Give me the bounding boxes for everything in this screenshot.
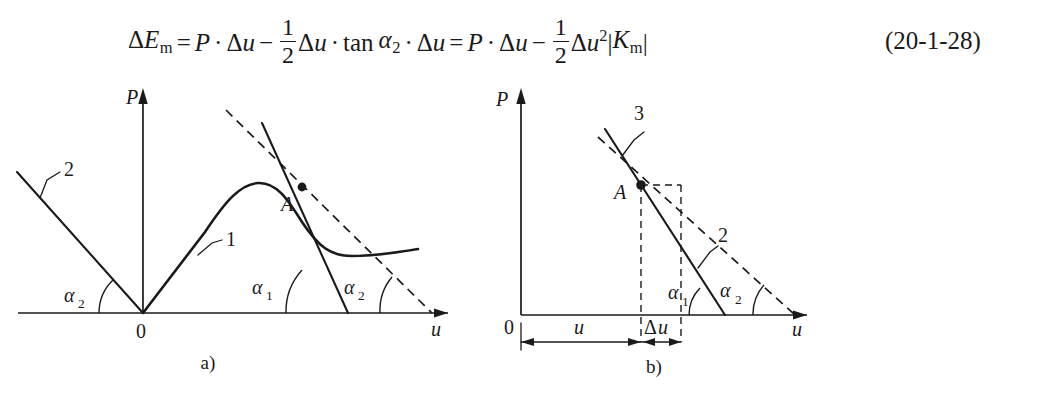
figure-a-angle-alpha2-left-subscript: 2 — [78, 296, 85, 311]
equation-20-1-28: ΔEm = P · Δu − 1 2 Δu · tan α2 · Δu = — [128, 14, 648, 70]
equation-cdot-4: · — [487, 30, 495, 55]
figure-a-p-axis-label: P — [125, 86, 138, 108]
figure-a-origin-label: 0 — [136, 320, 146, 342]
figure-b-drawing: 3 2 A α 1 α 2 u — [462, 80, 892, 380]
figure-a-point-A-marker — [298, 183, 307, 192]
figure-a-angle-alpha2-right-subscript: 2 — [358, 288, 365, 303]
figure-a-angle-alpha2-right-arc — [380, 277, 392, 313]
equation-cdot-2: · — [331, 30, 339, 55]
figure-a-angle-alpha2-left-arc — [99, 280, 113, 313]
equation-abs-close: | — [643, 30, 648, 55]
equation-number: (20-1-28) — [885, 27, 981, 55]
equation-delta-u-squared: Δu2 — [571, 28, 608, 55]
equation-delta-u-1: Δu — [226, 30, 255, 55]
figure-a-label-1-leader — [198, 240, 222, 255]
equation-delta-u-2: Δu — [298, 30, 327, 55]
document-page: ΔEm = P · Δu − 1 2 Δu · tan α2 · Δu = — [0, 0, 1041, 394]
equation-row: ΔEm = P · Δu − 1 2 Δu · tan α2 · Δu = — [0, 14, 1041, 76]
figure-b-origin-label: 0 — [504, 316, 514, 338]
figure-a-angle-alpha2-left-label: α — [64, 284, 75, 306]
figure-a-line-2-label: 2 — [64, 158, 74, 180]
figure-b-angle-alpha2-arc — [753, 285, 764, 315]
figure-b-line-3-solid — [605, 129, 725, 315]
figure-a-caption: a) — [182, 352, 234, 374]
figure-b-dim-u-label: u — [574, 316, 584, 338]
figure-b-angle-alpha2-label: α — [720, 279, 731, 301]
figure-a-point-A-label: A — [279, 193, 294, 215]
figure-b-dim-du-arrow-left — [643, 338, 655, 346]
figure-b: 3 2 A α 1 α 2 u — [462, 80, 892, 394]
figure-b-angle-alpha1-arc — [689, 288, 700, 315]
figure-b-label-2-leader — [698, 246, 718, 268]
equation-equals-2: = — [449, 30, 463, 55]
figure-b-line-3-label: 3 — [634, 102, 644, 124]
figure-a-u-axis-label: u — [431, 318, 441, 340]
equation-delta-u-4: Δu — [499, 30, 528, 55]
equation-minus-2: − — [532, 30, 546, 55]
figure-b-dim-u-arrow-right — [628, 338, 641, 346]
figure-b-caption: b) — [628, 356, 680, 378]
figure-b-label-3-leader — [622, 132, 644, 156]
figure-b-point-A-marker — [636, 180, 646, 190]
figure-b-angle-alpha1-subscript: 1 — [682, 294, 689, 309]
figure-a-angle-alpha2-right-label: α — [344, 276, 355, 298]
figure-b-p-axis-arrowhead — [516, 88, 525, 104]
figure-b-angle-alpha1-label: α — [668, 281, 679, 303]
fraction-denominator: 2 — [553, 43, 569, 67]
figure-b-dim-du-u: u — [658, 316, 668, 338]
equation-K-m: Km — [613, 27, 643, 56]
fraction-numerator: 1 — [553, 15, 569, 39]
equation-P-1: P — [195, 30, 210, 55]
equation-cdot-3: · — [404, 30, 412, 55]
figure-a-curve-1-label: 1 — [226, 228, 236, 250]
equation-P-2: P — [467, 30, 482, 55]
fraction-denominator: 2 — [280, 43, 296, 67]
figure-b-dim-u-arrow-left — [521, 338, 534, 346]
figure-a-angle-alpha1-arc — [286, 270, 302, 313]
figure-a-angle-alpha1-label: α — [252, 276, 263, 298]
figure-b-p-axis-label: P — [495, 88, 508, 110]
figure-b-dim-du-arrow-right — [669, 338, 681, 346]
figure-b-point-A-label: A — [612, 181, 627, 203]
figure-a-u-axis-arrowhead — [434, 308, 448, 317]
figure-a-label-2-leader — [40, 172, 60, 198]
figure-b-angle-alpha2-subscript: 2 — [735, 292, 742, 307]
figure-a-angle-alpha1-subscript: 1 — [266, 288, 273, 303]
figure-a-p-axis-arrowhead — [138, 88, 147, 104]
equation-fraction-half-2: 1 2 — [553, 15, 569, 68]
equation-minus-1: − — [259, 30, 273, 55]
equation-delta-u-3: Δu — [417, 30, 446, 55]
equation-tan: tan — [343, 30, 374, 55]
figure-a-drawing: 2 1 A α 2 α 1 α 2 P — [0, 80, 480, 380]
equation-equals-1: = — [177, 30, 191, 55]
equation-cdot-1: · — [214, 30, 222, 55]
figure-a-line-2 — [17, 172, 143, 313]
fraction-numerator: 1 — [280, 15, 296, 39]
equation-delta-E-m: ΔEm — [128, 27, 173, 56]
figure-a: 2 1 A α 2 α 1 α 2 P — [0, 80, 480, 394]
figure-b-dim-du-delta: Δ — [644, 316, 657, 338]
equation-fraction-half-1: 1 2 — [280, 15, 296, 68]
figure-b-line-2-label: 2 — [718, 224, 728, 246]
figure-b-u-axis-label: u — [792, 318, 802, 340]
equation-alpha-2: α2 — [379, 27, 401, 56]
